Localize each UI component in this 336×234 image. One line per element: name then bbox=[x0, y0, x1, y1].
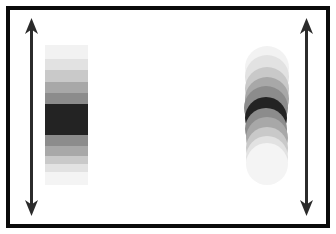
band-bar-segment bbox=[45, 82, 88, 94]
band-bar-segment bbox=[45, 146, 88, 157]
band-bar-segment bbox=[45, 164, 88, 172]
figure-root bbox=[0, 0, 336, 234]
left-double-arrow bbox=[25, 18, 38, 216]
band-bar-segment bbox=[45, 93, 88, 104]
band-bar-segment bbox=[45, 172, 88, 185]
band-bar-segment bbox=[45, 104, 88, 135]
gradient-circle-stack bbox=[242, 45, 292, 185]
band-bar-segment bbox=[45, 45, 88, 59]
band-bar-segment bbox=[45, 70, 88, 82]
left-arrow-body bbox=[25, 18, 38, 216]
circle-stack-blob bbox=[246, 143, 288, 185]
band-bar-segment bbox=[45, 59, 88, 70]
band-bar-segment bbox=[45, 156, 88, 164]
band-bar-segment bbox=[45, 135, 88, 146]
gradient-band-bar bbox=[45, 45, 88, 185]
figure-canvas bbox=[0, 0, 336, 234]
right-double-arrow bbox=[300, 18, 313, 216]
right-arrow-body bbox=[300, 18, 313, 216]
